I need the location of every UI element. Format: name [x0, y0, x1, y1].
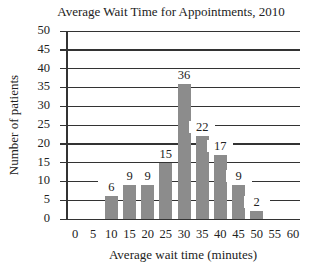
bar	[123, 185, 136, 219]
bar-value-label: 17	[207, 140, 233, 152]
y-tick-label: 20	[26, 137, 50, 149]
bar-value-label: 6	[98, 181, 124, 193]
gridline	[60, 49, 300, 50]
x-axis-label: Average wait time (minutes)	[66, 247, 300, 263]
y-tick-label: 25	[26, 118, 50, 130]
bar-value-label: 9	[135, 170, 161, 182]
bar-value-label: 2	[244, 196, 270, 208]
y-axis-line	[66, 31, 68, 220]
bar-value-label: 22	[189, 121, 215, 133]
y-tick-label: 45	[26, 43, 50, 55]
bar-value-label: 36	[171, 69, 197, 81]
bar	[141, 185, 154, 219]
x-tick-label: 60	[281, 228, 305, 240]
y-tick-label: 30	[26, 99, 50, 111]
y-axis-label: Number of patients	[6, 75, 22, 175]
y-tick-label: 0	[26, 212, 50, 224]
y-tick-label: 5	[26, 193, 50, 205]
bar	[105, 196, 118, 219]
bar	[178, 84, 191, 219]
bar	[159, 163, 172, 219]
gridline	[60, 31, 300, 32]
bar	[250, 211, 263, 219]
y-tick-label: 40	[26, 62, 50, 74]
bar	[214, 155, 227, 219]
y-tick-label: 35	[26, 80, 50, 92]
plot-area: 0510152025303540455005101520253035404550…	[0, 0, 314, 271]
bar-value-label: 9	[226, 170, 252, 182]
bar-value-label: 15	[153, 148, 179, 160]
y-tick-label: 10	[26, 174, 50, 186]
y-tick-label: 50	[26, 24, 50, 36]
y-tick-label: 15	[26, 156, 50, 168]
